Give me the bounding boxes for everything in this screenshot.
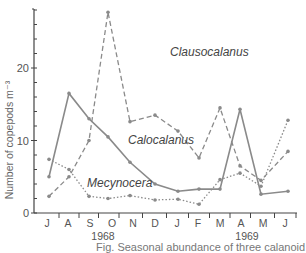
x-tick-label: J	[282, 217, 287, 229]
data-point	[47, 195, 51, 199]
data-point	[197, 203, 201, 207]
y-tick-label: 0	[23, 207, 29, 219]
data-point	[47, 175, 51, 179]
data-point	[128, 120, 132, 124]
data-point	[259, 179, 263, 183]
data-point	[153, 198, 157, 202]
data-point	[87, 139, 91, 143]
series-label: Clausocalanus	[170, 45, 249, 59]
data-point	[197, 187, 201, 191]
x-tick-label: M	[259, 217, 268, 229]
y-axis-label: Number of copepods m⁻³	[3, 80, 15, 199]
x-tick-label: J	[44, 217, 49, 229]
data-point	[238, 164, 242, 168]
data-point	[106, 135, 110, 139]
data-point	[106, 197, 110, 201]
data-point	[238, 108, 242, 112]
series-label: Mecynocera	[87, 176, 153, 190]
data-point	[286, 118, 290, 122]
data-point	[286, 150, 290, 154]
x-tick-label: N	[129, 217, 137, 229]
y-tick-label: 10	[17, 135, 29, 147]
x-tick-label: O	[108, 217, 116, 229]
x-tick-label: M	[216, 217, 225, 229]
data-point	[153, 113, 157, 117]
data-point	[67, 168, 71, 172]
data-point	[286, 189, 290, 193]
series-clausocalanus	[49, 12, 288, 196]
series-label: Calocalanus	[128, 133, 194, 147]
data-point	[176, 197, 180, 201]
x-tick-label: S	[86, 217, 93, 229]
data-point	[259, 192, 263, 196]
data-point	[218, 106, 222, 110]
data-point	[197, 156, 201, 160]
x-tick-label: J	[174, 217, 179, 229]
data-point	[87, 195, 91, 199]
x-tick-label: A	[237, 217, 244, 229]
data-point	[67, 175, 71, 179]
data-point	[153, 182, 157, 186]
data-point	[218, 187, 222, 191]
data-point	[67, 92, 71, 96]
y-tick-label: 20	[17, 62, 29, 74]
data-point	[87, 117, 91, 121]
data-point	[128, 160, 132, 164]
x-tick-label: A	[64, 217, 71, 229]
data-point	[259, 184, 263, 188]
x-tick-label: F	[195, 217, 201, 229]
figure-caption: Fig. Seasonal abundance of three calanoi…	[96, 241, 305, 253]
data-point	[47, 158, 51, 162]
x-tick-label: D	[151, 217, 159, 229]
data-point	[128, 194, 132, 198]
data-point	[176, 189, 180, 193]
data-point	[106, 10, 110, 14]
data-point	[238, 171, 242, 175]
data-point	[218, 178, 222, 182]
